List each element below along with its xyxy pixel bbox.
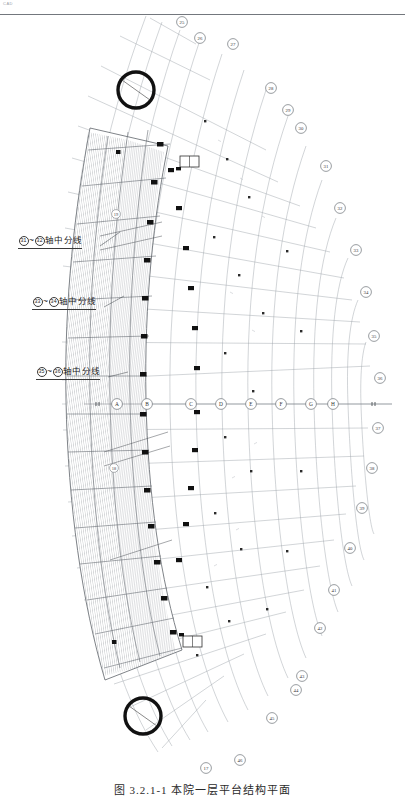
annot-2-suffix: 轴中分线 bbox=[59, 296, 96, 306]
axis-bubble-E: E bbox=[246, 399, 257, 410]
axis-bubble-38: 38 bbox=[367, 463, 378, 474]
axis-bubble-32: 32 bbox=[335, 203, 346, 214]
axis-bubble-17: 17 bbox=[201, 763, 212, 774]
axis-bubbles-upper-right: 28 29 30 31 bbox=[266, 83, 332, 172]
svg-text:C: C bbox=[189, 401, 193, 407]
axis-bubble-A: A bbox=[112, 399, 123, 410]
svg-text:31: 31 bbox=[324, 164, 329, 169]
svg-text:B: B bbox=[145, 401, 149, 407]
axis-bubble-36: 36 bbox=[375, 373, 386, 384]
axis-bubble-C: C bbox=[186, 399, 197, 410]
svg-text:H: H bbox=[331, 401, 335, 407]
detail-callout-lower bbox=[179, 633, 202, 647]
axis-bubble-41: 41 bbox=[329, 585, 340, 596]
svg-text:36: 36 bbox=[378, 376, 383, 381]
svg-text:G: G bbox=[309, 401, 313, 407]
svg-text:40: 40 bbox=[348, 546, 353, 551]
annot-3-mid: ~ bbox=[47, 366, 52, 376]
axis-bubble-H: H bbox=[328, 399, 339, 410]
axis-bubble-D: D bbox=[216, 399, 227, 410]
annot-1-mid: ~ bbox=[29, 235, 34, 245]
svg-text:F: F bbox=[280, 401, 283, 407]
annot-1-circle-b: 32 bbox=[35, 236, 45, 246]
annot-3-circle-a: 35 bbox=[37, 367, 47, 377]
axis-bubble-39: 39 bbox=[357, 503, 368, 514]
grid-intersection-dots bbox=[196, 120, 302, 656]
annotation-axis-midline-2: 33~34轴中分线 bbox=[32, 297, 96, 310]
axis-bubbles-top: 25 26 27 bbox=[177, 17, 239, 50]
axis-bubble-inner-19: 19 bbox=[112, 210, 121, 219]
svg-text:17: 17 bbox=[204, 766, 209, 771]
annot-1-circle-a: 31 bbox=[19, 236, 29, 246]
annot-3-suffix: 轴中分线 bbox=[63, 366, 100, 376]
axis-bubbles-lower-right: 37 38 39 40 41 42 bbox=[315, 423, 384, 634]
axis-bubble-26: 26 bbox=[195, 33, 206, 44]
svg-text:27: 27 bbox=[231, 42, 236, 47]
annot-2-mid: ~ bbox=[43, 296, 48, 306]
axis-bubble-25: 25 bbox=[177, 17, 188, 28]
axis-bubbles-bottom: 43 44 45 46 17 bbox=[201, 671, 308, 774]
axis-bubble-42: 42 bbox=[315, 623, 326, 634]
svg-text:26: 26 bbox=[198, 36, 203, 41]
svg-text:46: 46 bbox=[238, 758, 243, 763]
svg-text:41: 41 bbox=[332, 588, 337, 593]
svg-text:30: 30 bbox=[299, 126, 304, 131]
svg-text:25: 25 bbox=[180, 20, 185, 25]
svg-text:35: 35 bbox=[372, 334, 377, 339]
svg-text:38: 38 bbox=[370, 466, 375, 471]
axis-bubble-30: 30 bbox=[296, 123, 307, 134]
axis-bubble-B: B bbox=[142, 399, 153, 410]
svg-text:33: 33 bbox=[354, 248, 359, 253]
svg-text:45: 45 bbox=[270, 716, 275, 721]
svg-text:A: A bbox=[115, 401, 119, 407]
svg-text:37: 37 bbox=[376, 426, 381, 431]
structural-plan-drawing: A B C D E F G H 25 26 27 28 29 30 31 32 … bbox=[0, 0, 405, 798]
axis-bubble-33: 33 bbox=[351, 245, 362, 256]
axis-bubble-F: F bbox=[276, 399, 287, 410]
svg-text:42: 42 bbox=[318, 626, 323, 631]
axis-bubble-34: 34 bbox=[361, 287, 372, 298]
axis-bubble-40: 40 bbox=[345, 543, 356, 554]
svg-text:29: 29 bbox=[286, 108, 291, 113]
annotation-axis-midline-1: 31~32轴中分线 bbox=[18, 236, 82, 249]
axis-bubble-37: 37 bbox=[373, 423, 384, 434]
svg-text:39: 39 bbox=[360, 506, 365, 511]
axis-bubble-46: 46 bbox=[235, 755, 246, 766]
drawing-sheet: CAD bbox=[0, 0, 405, 798]
svg-text:43: 43 bbox=[300, 674, 305, 679]
annot-1-suffix: 轴中分线 bbox=[45, 235, 82, 245]
figure-caption: 图 3.2.1-1 本院一层平台结构平面 bbox=[0, 781, 405, 798]
axis-bubble-27: 27 bbox=[228, 39, 239, 50]
svg-text:28: 28 bbox=[269, 86, 274, 91]
axis-bubble-29: 29 bbox=[283, 105, 294, 116]
axis-bubble-G: G bbox=[306, 399, 317, 410]
svg-text:44: 44 bbox=[294, 688, 299, 693]
svg-text:D: D bbox=[219, 401, 223, 407]
svg-text:32: 32 bbox=[338, 206, 343, 211]
micro-dimension-ticks bbox=[214, 140, 265, 566]
svg-text:34: 34 bbox=[364, 290, 369, 295]
axis-bubble-43: 43 bbox=[297, 671, 308, 682]
axis-bubble-inner-18: 18 bbox=[110, 464, 119, 473]
axis-bubble-45: 45 bbox=[267, 713, 278, 724]
axis-bubbles-right: 32 33 34 35 36 bbox=[335, 203, 386, 384]
annot-3-circle-b: 36 bbox=[53, 367, 63, 377]
annot-2-circle-b: 34 bbox=[49, 297, 59, 307]
axis-bubble-31: 31 bbox=[321, 161, 332, 172]
axis-bubble-35: 35 bbox=[369, 331, 380, 342]
annot-2-circle-a: 33 bbox=[33, 297, 43, 307]
annotation-axis-midline-3: 35~36轴中分线 bbox=[36, 367, 100, 380]
axis-bubble-28: 28 bbox=[266, 83, 277, 94]
axis-bubble-44: 44 bbox=[291, 685, 302, 696]
